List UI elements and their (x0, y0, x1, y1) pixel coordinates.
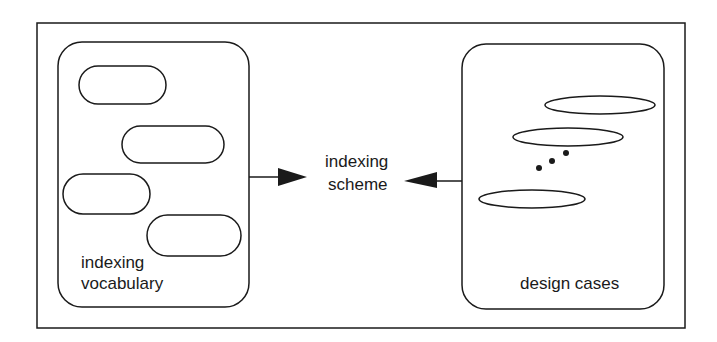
ellipsis-dot-3 (563, 150, 569, 156)
vocabulary-term-3 (63, 174, 150, 214)
ellipsis-dot-1 (536, 165, 542, 171)
vocabulary-term-1 (79, 66, 166, 104)
indexing-scheme-label-line2: scheme (328, 175, 388, 195)
arrow-cases-to-scheme-head (404, 172, 437, 188)
arrow-vocabulary-to-scheme-head (278, 168, 307, 186)
vocabulary-term-4 (147, 215, 241, 256)
design-case-3 (479, 190, 585, 208)
design-case-1 (545, 96, 655, 114)
indexing-vocabulary-label-line2: vocabulary (81, 274, 163, 294)
design-case-2 (513, 128, 623, 146)
indexing-scheme-label-line1: indexing (325, 152, 388, 172)
design-cases-label: design cases (520, 274, 619, 294)
indexing-vocabulary-label-line1: indexing (81, 253, 144, 273)
ellipsis-dot-2 (549, 158, 555, 164)
design-cases-box (462, 44, 664, 309)
vocabulary-term-2 (122, 126, 224, 163)
